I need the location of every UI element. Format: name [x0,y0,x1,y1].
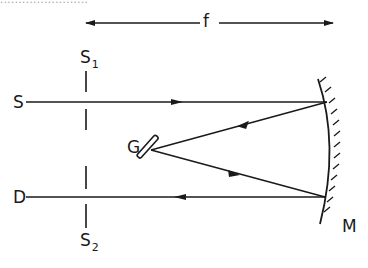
detector-label: D [13,189,26,206]
slit-s1-label-sub: 1 [92,58,99,71]
mirror-label: M [342,218,357,235]
ray-mirror-to-grating [151,102,327,150]
focal-length-label: f [203,13,209,30]
slit-s2-label-main: S [80,230,91,250]
slit-s2-label-sub: 2 [92,241,99,254]
ray-mirror-to-detector [26,194,325,200]
concave-mirror [318,77,340,224]
ray-source-to-mirror [26,99,327,105]
arrow-left-icon [174,194,186,200]
cutoff-caption-text: ........................ [0,0,88,5]
ray-grating-to-mirror [151,150,325,197]
slit-s1-label-main: S [80,47,91,67]
diagram-canvas: ........................ [0,0,368,268]
arrow-right-icon [171,99,183,105]
slit-s2-label: S2 [80,232,99,249]
grating-label: G [127,139,140,156]
optical-diagram [0,0,368,268]
slit-s1-label: S1 [80,49,99,66]
arrow-left-icon [237,121,249,129]
source-label: S [13,94,24,111]
